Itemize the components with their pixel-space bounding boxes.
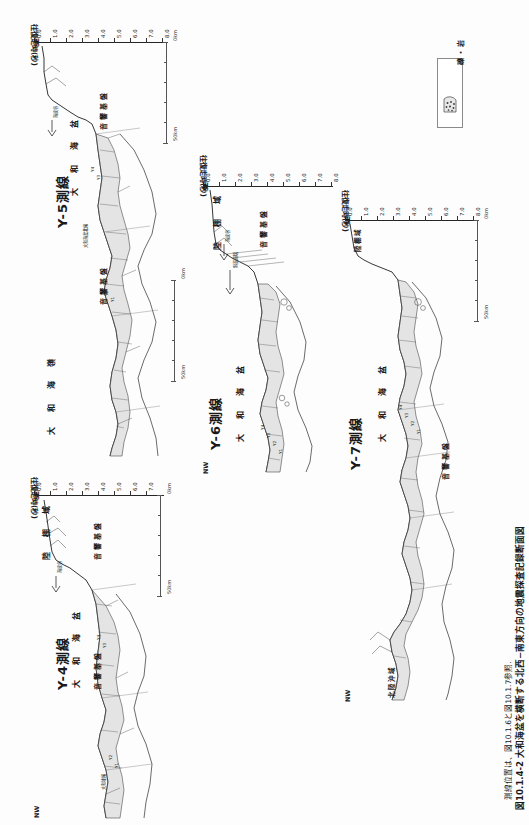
panel-y7-annotation-0: Y4	[398, 405, 403, 410]
panel-y7-region-1: 大 和 海 盆	[376, 360, 387, 442]
panel-y7-basement-0: 音響基盤	[440, 440, 450, 480]
figure-page: 往復走時(秒) 0.0 1.0 2.0 3.0 4.0 5.0 6.0 7.0 …	[0, 0, 529, 825]
panel-y7-region-2: 北陸沖域	[386, 666, 396, 698]
figure-caption-sub: 測線位置は、図10.1.6と図10.1.7参照.	[502, 661, 513, 800]
panel-y7-annotation-1: Y3	[404, 413, 409, 418]
panel-y7-annotation-3: Y1	[416, 429, 421, 434]
panel-y7-annotation-2: Y2	[410, 421, 415, 426]
figure-caption-main: 図10.1.4-2 大和海盆を横断する北西−南東方向の地震探査記録断面図	[513, 526, 525, 810]
panel-y7-title: Y-7測線	[345, 417, 364, 470]
legend-box: 礫・岩	[437, 58, 463, 128]
panel-y7-nw-label: NW	[344, 690, 352, 702]
gravel-rock-pattern-icon	[438, 59, 462, 127]
panel-y7-region-0: 陸棚域	[352, 228, 362, 252]
